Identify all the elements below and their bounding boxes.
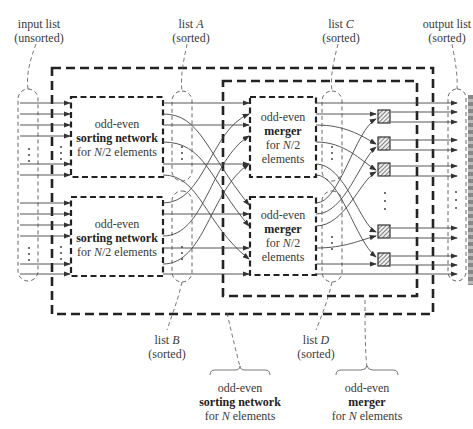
sort-top-var: N — [94, 145, 102, 159]
comparator — [378, 163, 390, 176]
sort-bottom-line3: for N/2 elements — [71, 245, 163, 259]
list-d-prefix: list — [303, 333, 321, 347]
list-a-prefix: list — [178, 17, 196, 31]
comparator — [378, 253, 390, 266]
output-list-label: output list (sorted) — [414, 17, 473, 45]
sort-bottom-prefix: for — [77, 245, 94, 259]
merge-bottom-text: odd-even merger for N/2 elements — [250, 208, 316, 264]
list-b-label-line2: (sorted) — [142, 347, 192, 361]
sort-bottom-line2: sorting network — [71, 231, 163, 245]
page-edge-shadow — [468, 95, 473, 285]
sort-top-line2: sorting network — [71, 131, 163, 145]
sort-top-line3: for N/2 elements — [71, 145, 163, 159]
comparator — [378, 110, 390, 123]
list-b-var: B — [172, 333, 179, 347]
list-c-label-line2: (sorted) — [316, 31, 366, 45]
list-c-var: C — [346, 17, 354, 31]
list-d-label: list D (sorted) — [290, 333, 342, 361]
sorting-network-n-prefix: for — [205, 409, 222, 423]
merger-n-line2: merger — [326, 395, 408, 409]
merger-n-prefix: for — [332, 409, 349, 423]
ab-to-merger-arrows — [163, 103, 249, 274]
comparators — [378, 110, 390, 266]
sorting-network-n-label: odd-even sorting network for N elements — [198, 381, 282, 423]
input-list-label-line2: (unsorted) — [8, 31, 70, 45]
comparator — [378, 137, 390, 150]
sort-top-text: odd-even sorting network for N/2 element… — [71, 117, 163, 159]
list-b-prefix: list — [154, 333, 172, 347]
list-c-prefix: list — [328, 17, 346, 31]
sort-bottom-suffix: /2 elements — [102, 245, 157, 259]
list-b-capsule — [172, 191, 192, 282]
merger-output-wires — [316, 103, 457, 274]
list-a-label-line2: (sorted) — [166, 31, 216, 45]
merge-bottom-prefix: for — [266, 236, 283, 250]
sort-bottom-text: odd-even sorting network for N/2 element… — [71, 217, 163, 259]
merge-top-line4: elements — [250, 152, 316, 166]
merger-n-suffix: elements — [357, 409, 403, 423]
list-b-label: list B (sorted) — [142, 333, 192, 361]
list-c-capsule — [322, 91, 342, 181]
input-list-label: input list (unsorted) — [8, 17, 70, 45]
input-list-capsule — [18, 89, 38, 281]
merge-bottom-line4: elements — [250, 250, 316, 264]
merge-top-line2: merger — [250, 124, 316, 138]
output-list-capsule — [448, 89, 466, 281]
sorting-network-n-var: N — [222, 409, 230, 423]
diagram-canvas — [0, 0, 473, 429]
list-a-capsule — [172, 91, 192, 181]
merge-bottom-line2: merger — [250, 222, 316, 236]
input-list-label-line1: input list — [8, 17, 70, 31]
sort-top-suffix: /2 elements — [102, 145, 157, 159]
list-c-label-line1: list C — [316, 17, 366, 31]
merge-top-text: odd-even merger for N/2 elements — [250, 110, 316, 166]
list-d-label-line1: list D — [290, 333, 342, 347]
merger-n-line1: odd-even — [326, 381, 408, 395]
list-c-label: list C (sorted) — [316, 17, 366, 45]
sorting-network-n-suffix: elements — [230, 409, 276, 423]
sort-bottom-line1: odd-even — [71, 217, 163, 231]
comparator — [378, 225, 390, 238]
merge-top-line1: odd-even — [250, 110, 316, 124]
list-a-label: list A (sorted) — [166, 17, 216, 45]
sorting-network-n-line2: sorting network — [198, 395, 282, 409]
merge-bottom-suffix: /2 — [291, 236, 300, 250]
merge-bottom-line3: for N/2 — [250, 236, 316, 250]
list-d-var: D — [321, 333, 330, 347]
output-list-label-line1: output list — [414, 17, 473, 31]
sort-bottom-var: N — [94, 245, 102, 259]
sort-top-prefix: for — [77, 145, 94, 159]
merge-bottom-line1: odd-even — [250, 208, 316, 222]
list-d-label-line2: (sorted) — [290, 347, 342, 361]
merge-bottom-var: N — [283, 236, 291, 250]
sorting-network-n-line3: for N elements — [198, 409, 282, 423]
merge-top-suffix: /2 — [291, 138, 300, 152]
sort-top-line1: odd-even — [71, 117, 163, 131]
list-b-label-line1: list B — [142, 333, 192, 347]
list-a-label-line1: list A — [166, 17, 216, 31]
merge-top-line3: for N/2 — [250, 138, 316, 152]
sorting-network-n-line1: odd-even — [198, 381, 282, 395]
input-arrows — [20, 103, 70, 274]
merger-n-label: odd-even merger for N elements — [326, 381, 408, 423]
list-a-var: A — [196, 17, 203, 31]
braces — [210, 366, 398, 375]
output-list-label-line2: (sorted) — [414, 31, 473, 45]
merger-n-line3: for N elements — [326, 409, 408, 423]
merger-n-var: N — [349, 409, 357, 423]
merge-top-var: N — [283, 138, 291, 152]
merge-top-prefix: for — [266, 138, 283, 152]
